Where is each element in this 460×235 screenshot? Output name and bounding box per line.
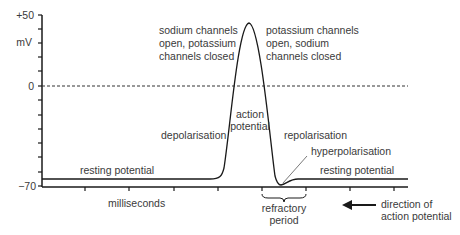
svg-text:refractory: refractory — [262, 202, 307, 214]
refractory-brace — [262, 194, 306, 202]
y-axis: +50 mV 0 −70 — [16, 9, 42, 192]
svg-text:sodium channels: sodium channels — [159, 24, 238, 36]
action-potential-label: action potential — [230, 108, 270, 132]
svg-text:period: period — [269, 214, 298, 226]
svg-text:channels closed: channels closed — [159, 50, 234, 62]
refractory-period-label: refractory period — [262, 202, 307, 226]
potassium-annotation: potassium channels open, sodium channels… — [266, 24, 359, 62]
action-potential-diagram: +50 mV 0 −70 milliseconds sodium channel… — [0, 0, 460, 235]
svg-text:direction of: direction of — [381, 198, 432, 210]
hyperpolarisation-label: hyperpolarisation — [311, 145, 391, 157]
depolarisation-label: depolarisation — [161, 129, 227, 141]
svg-text:channels closed: channels closed — [266, 50, 341, 62]
y-label-bottom: −70 — [18, 180, 36, 192]
y-label-zero: 0 — [28, 80, 34, 92]
svg-text:action: action — [236, 108, 264, 120]
sodium-annotation: sodium channels open, potassium channels… — [159, 24, 238, 62]
svg-text:open, sodium: open, sodium — [266, 37, 329, 49]
svg-text:open, potassium: open, potassium — [159, 37, 236, 49]
resting-potential-left-label: resting potential — [80, 164, 154, 176]
direction-arrow-icon — [342, 200, 376, 210]
repolarisation-label: repolarisation — [284, 129, 347, 141]
y-unit-label: mV — [16, 36, 32, 48]
svg-text:potential: potential — [230, 120, 270, 132]
y-label-top: +50 — [16, 9, 34, 21]
x-axis-label: milliseconds — [108, 197, 165, 209]
svg-text:action potential: action potential — [381, 210, 452, 222]
resting-potential-right-label: resting potential — [320, 164, 394, 176]
direction-label: direction of action potential — [381, 198, 452, 222]
svg-text:potassium channels: potassium channels — [266, 24, 359, 36]
